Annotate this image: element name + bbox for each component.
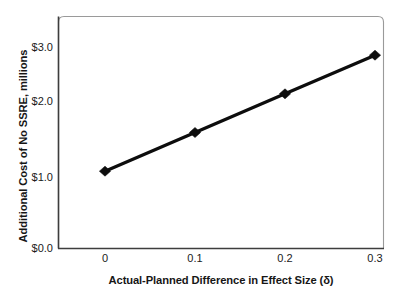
- chart-figure: Additional Cost of No SSRE, millions $3.…: [0, 0, 400, 297]
- x-tick-label-0: 0: [85, 252, 125, 264]
- x-tick-label-2: 0.2: [265, 252, 305, 264]
- x-tick-label-3: 0.3: [355, 252, 395, 264]
- x-axis-title: Actual-Planned Difference in Effect Size…: [58, 274, 384, 286]
- plot-background: [59, 17, 384, 249]
- x-tick-label-1: 0.1: [175, 252, 215, 264]
